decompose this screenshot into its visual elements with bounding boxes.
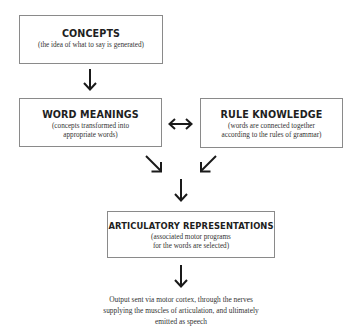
speech-output-text: Output sent via motor cortex, through th… — [60, 294, 302, 327]
concepts-box: CONCEPTS (the idea of what to say is gen… — [19, 15, 163, 64]
speech-output-line: emitted as speech — [60, 316, 302, 327]
down-arrow-icon — [84, 69, 96, 90]
rule-knowledge-description: (words are connected together according … — [201, 122, 342, 140]
word-meanings-description-line: (concepts transformed into — [20, 122, 161, 131]
down-arrow-icon — [175, 179, 187, 201]
articulatory-representations-description-line: (associated motor programs — [108, 233, 274, 242]
articulatory-representations-box: ARTICULATORY REPRESENTATIONS (associated… — [107, 211, 275, 258]
rule-knowledge-title: RULE KNOWLEDGE — [201, 109, 342, 120]
speech-output-line: supplying the muscles of articulation, a… — [60, 305, 302, 316]
articulatory-representations-description-line: for the words are selected) — [108, 242, 274, 251]
speech-output-line: Output sent via motor cortex, through th… — [60, 294, 302, 305]
rule-knowledge-description-line: according to the rules of grammar) — [201, 131, 342, 140]
word-meanings-title: WORD MEANINGS — [20, 109, 161, 120]
concepts-title: CONCEPTS — [20, 28, 162, 39]
rule-knowledge-description-line: (words are connected together — [201, 122, 342, 131]
word-meanings-description-line: appropriate words) — [20, 131, 161, 140]
concepts-description-line: (the idea of what to say is generated) — [20, 41, 162, 50]
word-meanings-box: WORD MEANINGS (concepts transformed into… — [19, 98, 162, 147]
diagonal-down-right-arrow-icon — [146, 156, 161, 172]
articulatory-representations-description: (associated motor programs for the words… — [108, 233, 274, 251]
concepts-description: (the idea of what to say is generated) — [20, 41, 162, 50]
down-arrow-icon — [175, 265, 187, 287]
word-meanings-description: (concepts transformed into appropriate w… — [20, 122, 161, 140]
bidirectional-arrow-icon — [170, 119, 192, 129]
rule-knowledge-box: RULE KNOWLEDGE (words are connected toge… — [200, 98, 343, 148]
articulatory-representations-title: ARTICULATORY REPRESENTATIONS — [108, 221, 274, 231]
diagonal-down-left-arrow-icon — [201, 156, 216, 172]
